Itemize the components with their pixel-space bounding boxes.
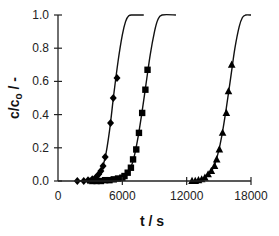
triangle-marker bbox=[223, 109, 231, 116]
axes: 0.00.20.40.60.81.0 060001200018000 bbox=[32, 8, 268, 203]
diamond-marker bbox=[107, 119, 114, 127]
triangle-marker bbox=[213, 155, 221, 162]
y-tick-label: 0.4 bbox=[32, 108, 49, 122]
y-axis-title: c/co / - bbox=[6, 77, 24, 119]
y-tick-label: 0.0 bbox=[32, 174, 49, 188]
y-tick-label: 0.2 bbox=[32, 141, 49, 155]
triangle-marker bbox=[216, 145, 224, 152]
breakthrough-chart: 0.00.20.40.60.81.0 060001200018000 t / s… bbox=[0, 0, 279, 236]
diamond-marker bbox=[110, 94, 117, 102]
square-marker bbox=[144, 67, 150, 73]
x-tick-label: 6000 bbox=[109, 189, 136, 203]
triangle-marker bbox=[219, 129, 227, 136]
triangle-marker bbox=[225, 87, 233, 94]
x-tick-label: 18000 bbox=[234, 189, 268, 203]
y-tick-label: 1.0 bbox=[32, 8, 49, 22]
diamond-marker bbox=[102, 153, 109, 161]
diamond-marker bbox=[113, 74, 120, 82]
square-marker bbox=[136, 130, 142, 136]
square-marker bbox=[130, 156, 136, 162]
fit-curve-triangle bbox=[191, 15, 251, 181]
x-axis-title: t / s bbox=[140, 213, 164, 229]
data-markers bbox=[74, 61, 236, 185]
y-tick-label: 0.6 bbox=[32, 74, 49, 88]
triangle-marker bbox=[211, 162, 219, 169]
y-tick-label: 0.8 bbox=[32, 41, 49, 55]
x-tick-label: 0 bbox=[55, 189, 62, 203]
square-marker bbox=[128, 165, 134, 171]
x-tick-label: 12000 bbox=[170, 189, 204, 203]
square-marker bbox=[142, 87, 148, 93]
square-marker bbox=[139, 110, 145, 116]
square-marker bbox=[133, 146, 139, 152]
triangle-marker bbox=[228, 61, 236, 68]
